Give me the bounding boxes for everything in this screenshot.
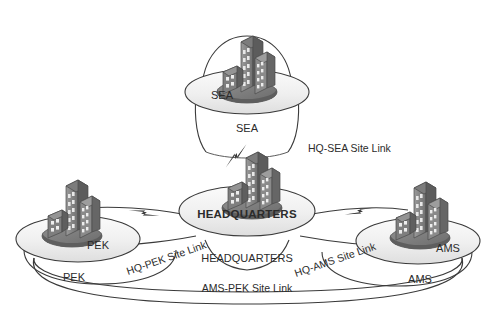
site-label-pek: PEK bbox=[87, 239, 110, 251]
site-node-sea[interactable]: SEA bbox=[185, 36, 309, 114]
office-buildings-icon bbox=[390, 182, 450, 249]
site-sublabel-sea: SEA bbox=[236, 122, 259, 134]
site-node-headquarters[interactable]: HEADQUARTERS bbox=[179, 152, 315, 236]
link-label-ams-pek: AMS-PEK Site Link bbox=[202, 282, 293, 294]
site-node-pek[interactable]: PEK bbox=[16, 180, 140, 262]
office-buildings-icon bbox=[42, 180, 102, 247]
site-sublabel-pek: PEK bbox=[63, 271, 86, 283]
site-sublabel-ams: AMS bbox=[408, 273, 432, 285]
link-ams-pek-shape bbox=[33, 258, 462, 304]
diagram-canvas: SEA SEA HEADQUARTERS HEADQUARTERS PEK PE… bbox=[0, 0, 494, 313]
lightning-bolt-icon-hq-ams bbox=[345, 201, 376, 221]
lightning-bolt-icon-hq-pek bbox=[129, 202, 160, 223]
link-label-hq-sea: HQ-SEA Site Link bbox=[308, 142, 392, 154]
site-label-ams: AMS bbox=[436, 242, 460, 254]
lightning-bolt-icon-hq-sea bbox=[226, 141, 247, 172]
site-link-topology-diagram: SEA SEA HEADQUARTERS HEADQUARTERS PEK PE… bbox=[0, 0, 494, 313]
site-label-sea: SEA bbox=[211, 89, 234, 101]
site-sublabel-headquarters: HEADQUARTERS bbox=[201, 252, 292, 264]
site-label-headquarters: HEADQUARTERS bbox=[197, 208, 297, 220]
